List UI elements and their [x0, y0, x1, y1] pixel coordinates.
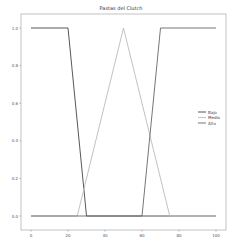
chart: Pastas del Clutch 0.00.20.40.60.81.0 020…: [0, 0, 236, 244]
y-tick-label: 0.8: [12, 63, 19, 68]
chart-title: Pastas del Clutch: [100, 5, 143, 11]
x-tick-label: 60: [139, 233, 145, 238]
x-tick-label: 80: [176, 233, 182, 238]
legend: BajoMedioAlto: [198, 110, 221, 126]
y-axis: 0.00.20.40.60.81.0: [12, 26, 21, 219]
y-tick-label: 0.6: [12, 101, 19, 106]
y-tick-label: 0.0: [12, 214, 19, 219]
series-lines: [31, 28, 216, 216]
y-tick-label: 1.0: [12, 26, 19, 31]
x-tick-label: 20: [65, 233, 71, 238]
series-medio-line: [31, 28, 216, 216]
y-tick-label: 0.2: [12, 176, 19, 181]
x-axis: 020406080100: [30, 230, 221, 238]
plot-area: [21, 14, 226, 230]
series-bajo-line: [31, 28, 216, 216]
x-tick-label: 100: [212, 233, 220, 238]
legend-entry: Alto: [208, 121, 216, 126]
x-tick-label: 40: [102, 233, 108, 238]
legend-entry: Medio: [208, 115, 221, 120]
series-alto-line: [31, 28, 216, 216]
y-tick-label: 0.4: [12, 138, 19, 143]
legend-entry: Bajo: [208, 110, 217, 115]
x-tick-label: 0: [30, 233, 33, 238]
